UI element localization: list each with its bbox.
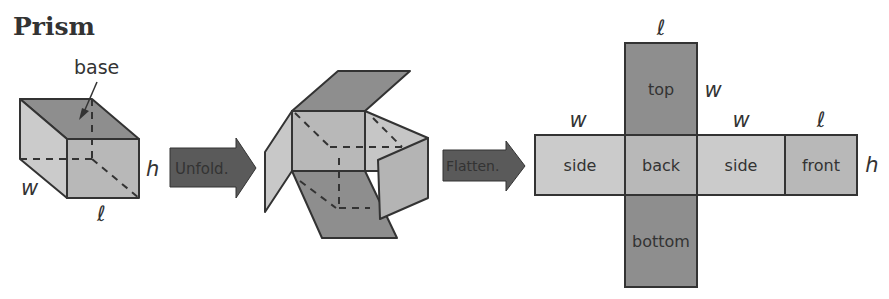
unfold-arrow: Unfold. xyxy=(170,138,256,198)
unfold-top-flap xyxy=(292,71,410,111)
flatten-label: Flatten. xyxy=(446,158,499,174)
prism-length-label: ℓ xyxy=(96,202,106,226)
net-label-left-side: side xyxy=(564,156,597,175)
prism-width-label: w xyxy=(21,176,39,200)
unfold-left-flap xyxy=(265,111,292,212)
net-top-width-label: w xyxy=(704,78,722,102)
net-front-length-label: ℓ xyxy=(816,108,826,132)
unfold-back-face xyxy=(292,111,365,171)
flatten-arrow: Flatten. xyxy=(443,141,525,191)
net-label-bottom: bottom xyxy=(632,232,690,251)
net-label-front: front xyxy=(802,156,840,175)
prism-unfolding xyxy=(265,71,428,238)
net-right-width-label: w xyxy=(732,108,750,132)
net-label-right-side: side xyxy=(725,156,758,175)
base-label: base xyxy=(74,56,119,78)
net-left-width-label: w xyxy=(569,108,587,132)
prism-height-label: h xyxy=(146,157,159,181)
net-label-back: back xyxy=(642,156,681,175)
net-label-top: top xyxy=(648,80,674,99)
net-height-label: h xyxy=(865,153,878,177)
net-top-length-label: ℓ xyxy=(656,16,666,40)
prism-net-diagram: base h w ℓ Unfold. Fl xyxy=(0,0,889,299)
unfold-label: Unfold. xyxy=(175,160,228,178)
